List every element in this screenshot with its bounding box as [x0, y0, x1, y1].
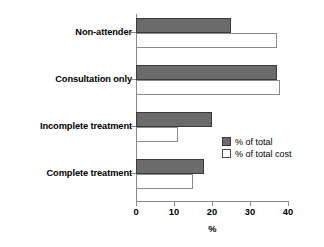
bar-consultation-only-cost: [136, 80, 280, 95]
category-label-text: Complete treatment: [4, 168, 132, 178]
bar-consultation-only-total: [136, 65, 277, 80]
plot-area: [136, 14, 288, 201]
legend-label: % of total: [235, 137, 273, 147]
category-label-consultation-only: Consultation only: [0, 74, 132, 84]
x-axis-tick-20: [212, 202, 213, 206]
bar-complete-treatment-total: [136, 159, 204, 174]
x-axis-title: %: [136, 224, 289, 234]
x-axis-tick-label-20: 20: [197, 207, 227, 217]
bar-incomplete-treatment-total: [136, 112, 212, 127]
x-axis-tick-0: [136, 202, 137, 206]
x-axis-tick-label-30: 30: [235, 207, 265, 217]
bar-non-attender-total: [136, 18, 231, 33]
category-label-text: Non-attender: [4, 27, 132, 37]
category-label-text: Incomplete treatment: [4, 121, 132, 131]
bar-incomplete-treatment-cost: [136, 127, 178, 142]
category-label-incomplete-treatment: Incomplete treatment: [0, 121, 132, 131]
bar-non-attender-cost: [136, 33, 277, 48]
category-label-non-attender: Non-attender: [0, 27, 132, 37]
bar-chart: Non-attender Consultation only Incomplet…: [0, 0, 324, 247]
legend-swatch-filled-icon: [222, 137, 231, 146]
legend-item-total-cost: % of total cost: [222, 148, 292, 159]
x-axis-tick-label-10: 10: [159, 207, 189, 217]
category-label-complete-treatment: Complete treatment: [0, 168, 132, 178]
x-axis-tick-label-0: 0: [121, 207, 151, 217]
x-axis-tick-label-40: 40: [273, 207, 303, 217]
legend-item-total: % of total: [222, 136, 292, 147]
x-axis-tick-30: [250, 202, 251, 206]
x-axis-tick-10: [174, 202, 175, 206]
category-label-text: Consultation only: [4, 74, 132, 84]
legend: % of total % of total cost: [222, 136, 292, 160]
legend-label: % of total cost: [235, 149, 292, 159]
legend-swatch-hollow-icon: [222, 149, 231, 158]
x-axis-tick-40: [288, 202, 289, 206]
bar-complete-treatment-cost: [136, 174, 193, 189]
